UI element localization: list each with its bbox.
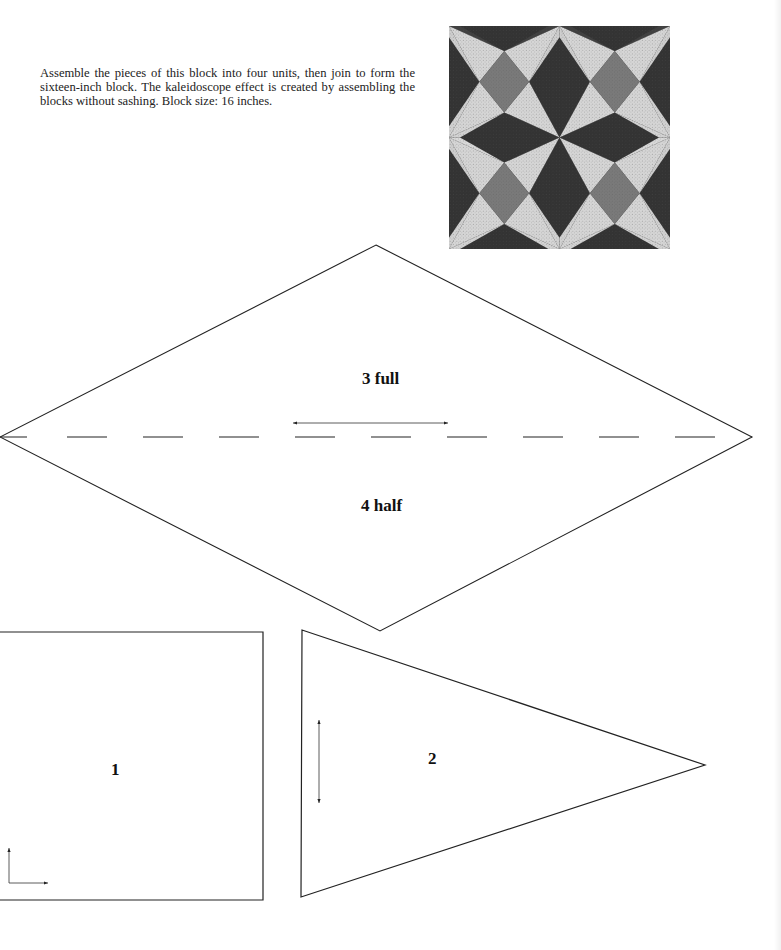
piece-label-2: 2 [428,749,437,769]
square-piece [0,632,263,900]
grain-arrow-corner [9,848,48,883]
piece-label-1: 1 [111,760,120,780]
piece-label-3-full: 3 full [362,369,399,389]
diamond-piece [0,245,752,631]
triangle-piece [301,630,705,897]
piece-label-4-half: 4 half [361,496,402,516]
pattern-pieces-drawing [0,0,781,950]
